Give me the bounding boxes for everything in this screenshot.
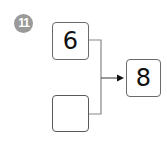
- arrow-head-icon: [117, 75, 124, 82]
- output-box: 8: [126, 59, 161, 97]
- input-box-bottom-blank[interactable]: [52, 95, 89, 132]
- input-box-top: 6: [52, 22, 89, 60]
